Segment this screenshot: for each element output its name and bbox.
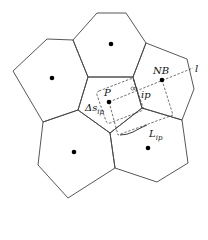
node-bottom-left xyxy=(72,150,77,155)
label-P: P xyxy=(104,88,111,98)
node-right-NB xyxy=(160,78,165,83)
node-bottom-right xyxy=(146,146,151,151)
label-NB: NB xyxy=(153,66,169,76)
L-text: L xyxy=(149,128,156,139)
cell-left xyxy=(13,39,88,122)
cell-bottom-right xyxy=(110,108,188,182)
label-ip: ip xyxy=(141,90,151,100)
label-l: l xyxy=(195,64,198,74)
node-center-P xyxy=(107,100,112,105)
delta-s-subscript: ip xyxy=(97,108,104,116)
line-l xyxy=(109,68,193,102)
node-left xyxy=(50,76,55,81)
delta-s-text: Δs xyxy=(85,102,97,113)
label-delta-s-ip: Δsip xyxy=(85,103,104,113)
l-ip-curve xyxy=(120,125,147,135)
node-top xyxy=(109,42,114,47)
label-L-ip: Lip xyxy=(149,129,162,139)
control-surface-rectangle xyxy=(97,79,144,124)
L-subscript: ip xyxy=(156,134,163,142)
cell-bottom-left xyxy=(38,110,115,198)
